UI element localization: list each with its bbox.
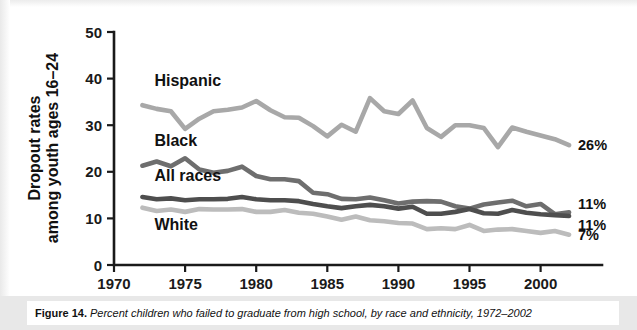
x-tick-label-2000: 2000 [524, 275, 557, 292]
x-tick-label-1975: 1975 [168, 275, 201, 292]
caption-bar: Figure 14. Percent children who failed t… [0, 296, 637, 330]
end-label-black: 11% [578, 196, 606, 212]
caption-number: Figure 14. [35, 307, 87, 319]
series-label-white: White [154, 216, 198, 233]
y-axis-title-line2: among youth ages 16–24 [44, 53, 61, 243]
y-tick-label-20: 20 [85, 163, 102, 180]
end-label-white: 7% [578, 227, 599, 243]
y-tick-label-40: 40 [85, 70, 102, 87]
x-tick-label-1985: 1985 [311, 275, 344, 292]
y-axis-title-line1: Dropout rates [26, 95, 43, 200]
figure-root: Dropout rates among youth ages 16–24 010… [0, 0, 637, 330]
line-chart: Dropout rates among youth ages 16–24 010… [0, 0, 637, 296]
x-tick-label-1980: 1980 [240, 275, 273, 292]
y-tick-label-0: 0 [94, 257, 102, 274]
y-tick-label-30: 30 [85, 117, 102, 134]
x-tick-label-1995: 1995 [453, 275, 486, 292]
x-axis-ticks: 1970197519801985199019952000 [97, 265, 557, 292]
series-label-hispanic: Hispanic [154, 72, 221, 89]
end-label-hispanic: 26% [578, 137, 607, 153]
series-line-hispanic [142, 98, 569, 147]
x-tick-label-1990: 1990 [382, 275, 415, 292]
caption: Figure 14. Percent children who failed t… [27, 301, 619, 325]
series-label-all-races: All races [154, 167, 221, 184]
series-end-labels: 26%11%11%7% [578, 137, 607, 242]
y-axis-title: Dropout rates among youth ages 16–24 [26, 53, 61, 243]
y-tick-label-10: 10 [85, 210, 102, 227]
caption-text: Percent children who failed to graduate … [90, 307, 532, 319]
series-label-black: Black [154, 132, 197, 149]
y-tick-label-50: 50 [85, 24, 102, 41]
y-axis-ticks: 01020304050 [85, 24, 114, 274]
x-tick-label-1970: 1970 [97, 275, 130, 292]
chart-svg: Dropout rates among youth ages 16–24 010… [0, 0, 637, 296]
